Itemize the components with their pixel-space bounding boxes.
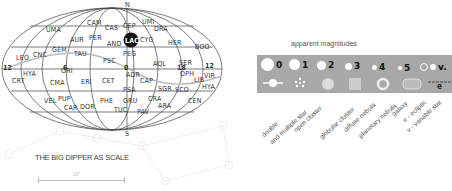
constellation-label[interactable]: AND — [107, 40, 121, 48]
planetary-nebula-icon — [376, 77, 390, 91]
hour-label: 0 — [124, 64, 129, 72]
constellation-label[interactable]: DOR — [80, 103, 95, 111]
ecliptic-symbol: e — [437, 81, 442, 91]
hour-label: 18 — [177, 64, 186, 72]
constellation-label[interactable]: CAM — [87, 19, 102, 27]
hour-label: 12 — [3, 64, 12, 72]
north-label: N — [125, 1, 130, 9]
magnitude-item: 1 — [289, 59, 308, 70]
scale-bar — [38, 180, 124, 181]
constellation-label[interactable]: ADR — [126, 71, 141, 79]
magnitude-item: 4 — [372, 62, 385, 72]
constellation-label[interactable]: PSA — [123, 86, 136, 94]
constellation-label[interactable]: HYA — [23, 70, 36, 78]
constellation-label[interactable]: BOO — [195, 43, 210, 51]
magnitude-label: 1 — [302, 60, 308, 70]
constellation-label[interactable]: PEG — [123, 50, 136, 58]
constellation-label[interactable]: VIR — [204, 72, 216, 80]
constellation-label[interactable]: PER — [89, 34, 102, 42]
scale-tick-left — [38, 177, 39, 183]
magnitude-item: v. — [420, 62, 447, 72]
magnitude-label: 2 — [328, 60, 334, 70]
star-magnitude-icon — [261, 58, 274, 71]
legend-box: 012345v. e — [257, 55, 452, 93]
constellation-label[interactable]: ERI — [81, 78, 92, 86]
constellation-label[interactable]: PHE — [100, 97, 113, 105]
scale-title: THE BIG DIPPER AS SCALE — [35, 153, 129, 162]
constellation-label[interactable]: HYA — [202, 83, 215, 91]
magnitude-item: 0 — [261, 58, 282, 71]
constellation-label[interactable]: TAU — [73, 50, 87, 58]
south-label: S — [125, 130, 129, 138]
constellation-label[interactable]: LEO — [16, 54, 29, 62]
legend-header: apparent magnitudes — [291, 40, 357, 47]
constellation-label[interactable]: ARA — [158, 102, 172, 110]
constellation-label[interactable]: SCO — [175, 86, 189, 94]
constellation-label[interactable]: SGR — [158, 85, 172, 93]
magnitude-item: 2 — [317, 60, 334, 70]
double-star-icon — [263, 77, 283, 89]
star-magnitude-icon — [420, 63, 428, 71]
magnitude-item: 5 — [398, 63, 410, 73]
constellation-label[interactable]: CMA — [50, 79, 65, 87]
star-magnitude-icon — [289, 59, 300, 70]
constellation-label[interactable]: AQL — [153, 60, 167, 68]
star-magnitude-icon — [317, 61, 326, 70]
magnitude-label: 0 — [276, 60, 282, 70]
magnitude-label: 3 — [354, 61, 360, 71]
constellation-label[interactable]: CRT — [12, 77, 25, 85]
constellation-label[interactable]: TUC — [113, 106, 128, 114]
diffuse-nebula-icon — [348, 77, 362, 91]
constellation-label[interactable]: CEN — [188, 97, 202, 105]
constellation-label[interactable]: CEP — [123, 22, 136, 30]
scale-tick-right — [124, 177, 125, 183]
constellation-label[interactable]: CET — [102, 77, 115, 85]
galaxy-icon — [402, 77, 422, 91]
globular-cluster-icon — [321, 77, 335, 91]
magnitude-item: 3 — [345, 61, 360, 71]
magnitude-label: 5 — [404, 63, 410, 73]
constellation-label[interactable]: CAP — [140, 77, 153, 85]
open-cluster-icon — [293, 77, 307, 89]
constellation-label[interactable]: GRU — [123, 97, 138, 105]
constellation-label[interactable]: CYG — [140, 36, 154, 44]
constellation-label[interactable]: CAR — [64, 104, 78, 112]
lac-label: LAC — [125, 37, 139, 45]
constellation-label[interactable]: PUP — [58, 95, 71, 103]
constellation-label[interactable]: HER — [168, 39, 182, 47]
constellation-label[interactable]: CNC — [33, 51, 48, 59]
hour-label: 6 — [63, 64, 68, 72]
constellation-label[interactable]: GEM — [52, 46, 67, 54]
variable-star-icon — [430, 64, 436, 70]
star-magnitude-icon — [398, 66, 402, 70]
constellation-label[interactable]: VEL — [44, 97, 57, 105]
scale-degrees: 10° — [73, 171, 81, 177]
magnitude-label: v. — [438, 62, 447, 72]
sky-map-canvas: LAC N S UMACAMCASCEPUMIDRAAURPERANDCYGHE… — [0, 0, 452, 191]
star-magnitude-icon — [345, 63, 352, 70]
constellation-label[interactable]: PAV — [137, 108, 150, 116]
constellation-label[interactable]: DRA — [154, 25, 168, 33]
constellation-label[interactable]: CAS — [105, 24, 118, 32]
constellation-label[interactable]: PSC — [103, 57, 116, 65]
constellation-label[interactable]: UMI — [142, 18, 155, 26]
hour-label: 12 — [205, 62, 214, 70]
constellation-label[interactable]: UMA — [46, 26, 61, 34]
star-magnitude-icon — [372, 65, 377, 70]
magnitude-label: 4 — [379, 62, 385, 72]
constellation-label[interactable]: AUR — [70, 36, 84, 44]
